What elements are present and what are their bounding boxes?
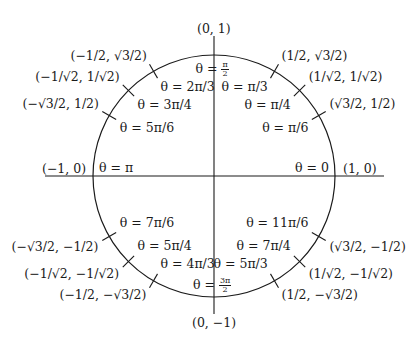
coordinate-label: (−1/2, −√3/2) <box>60 289 147 302</box>
coordinate-label: (1/2, √3/2) <box>282 50 348 63</box>
axis-label-top: (0, 1) <box>197 23 231 36</box>
theta-label: θ = 3π2 <box>193 277 231 294</box>
theta-label: θ = 11π/6 <box>246 217 308 230</box>
coordinate-label: (√3/2, 1/2) <box>329 98 395 111</box>
coordinate-label: (−√3/2, −1/2) <box>12 241 99 254</box>
coordinate-label: (√3/2, −1/2) <box>329 241 405 254</box>
axis-label-left: (−1, 0) <box>42 163 86 176</box>
theta-label: θ = π2 <box>196 61 229 78</box>
theta-label: θ = 4π/3 <box>161 258 215 271</box>
coordinate-label: (1/2, −√3/2) <box>282 289 358 302</box>
angle-tick-mark <box>150 274 158 288</box>
coordinate-label: (−1/2, √3/2) <box>71 50 147 63</box>
axis-label-bottom: (0, −1) <box>192 317 236 330</box>
angle-tick-mark <box>150 64 158 78</box>
angle-tick-mark <box>312 112 326 120</box>
theta-label: θ = 7π/6 <box>120 217 174 230</box>
coordinate-label: (−1/√2, 1/√2) <box>35 71 119 84</box>
theta-label: θ = 7π/4 <box>236 240 290 253</box>
theta-prefix: θ = <box>193 277 219 292</box>
axis-label-right: (1, 0) <box>343 163 377 176</box>
angle-tick-mark <box>102 233 116 241</box>
theta-label: θ = 0 <box>295 162 329 175</box>
theta-label: θ = 5π/6 <box>120 122 174 135</box>
fraction-denominator: 2 <box>221 70 228 78</box>
theta-fraction: π2 <box>221 61 228 78</box>
theta-label: θ = 5π/3 <box>214 258 268 271</box>
angle-tick-mark <box>312 233 326 241</box>
theta-label: θ = 5π/4 <box>138 240 192 253</box>
coordinate-label: (−1/√2, −1/√2) <box>24 268 119 281</box>
angle-tick-mark <box>102 112 116 120</box>
fraction-denominator: 2 <box>219 286 231 294</box>
theta-label: θ = 2π/3 <box>161 81 215 94</box>
angle-tick-mark <box>271 274 279 288</box>
coordinate-label: (1/√2, −1/√2) <box>309 268 393 281</box>
theta-label: θ = π/6 <box>262 122 308 135</box>
theta-label: θ = π <box>99 162 133 175</box>
theta-fraction: 3π2 <box>219 277 231 294</box>
theta-label: θ = π/3 <box>222 81 268 94</box>
theta-label: θ = 3π/4 <box>138 99 192 112</box>
coordinate-label: (1/√2, 1/√2) <box>309 71 383 84</box>
unit-circle-diagram: (0, 1) (0, −1) (−1, 0) (1, 0) θ = 0θ = π… <box>0 0 418 346</box>
theta-label: θ = π/4 <box>244 99 290 112</box>
coordinate-label: (−√3/2, 1/2) <box>23 98 99 111</box>
angle-tick-mark <box>271 64 279 78</box>
theta-prefix: θ = <box>196 61 222 76</box>
